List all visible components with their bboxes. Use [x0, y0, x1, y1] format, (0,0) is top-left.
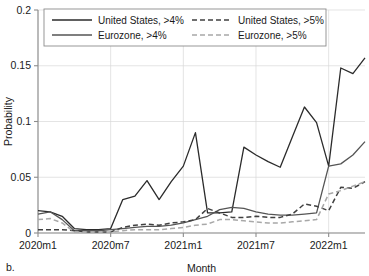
figure-container: 00.050.10.150.22020m12020m72021m12021m72…	[0, 0, 369, 276]
y-tick-label: 0.05	[11, 171, 32, 183]
panel-label: b.	[6, 261, 15, 273]
x-tick-label: 2020m7	[92, 239, 130, 251]
y-tick-label: 0.2	[16, 4, 31, 16]
series-line	[38, 58, 365, 230]
y-tick-label: 0	[25, 227, 31, 239]
probability-line-chart: 00.050.10.150.22020m12020m72021m12021m72…	[0, 0, 369, 276]
x-tick-label: 2021m1	[164, 239, 202, 251]
y-axis-title: Probability	[2, 96, 14, 146]
x-axis-title: Month	[187, 262, 216, 274]
y-tick-label: 0.1	[16, 115, 31, 127]
x-tick-label: 2021m7	[237, 239, 275, 251]
series-line	[38, 182, 365, 232]
y-tick-label: 0.15	[11, 59, 32, 71]
x-tick-label: 2022m1	[310, 239, 348, 251]
legend-label: United States, >4%	[98, 15, 184, 26]
legend-label: Eurozone, >5%	[238, 30, 307, 41]
legend-label: Eurozone, >4%	[98, 30, 167, 41]
series-line	[38, 142, 365, 231]
legend-label: United States, >5%	[238, 15, 324, 26]
x-tick-label: 2020m1	[19, 239, 57, 251]
